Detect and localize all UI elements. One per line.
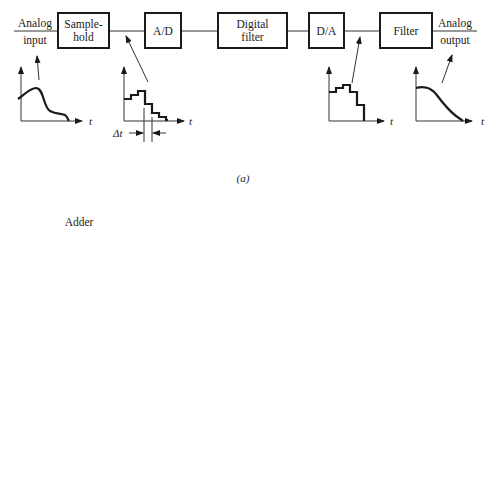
filter-block: Filter bbox=[380, 13, 432, 48]
da-converter-block: D/A bbox=[309, 13, 344, 48]
svg-text:D/A: D/A bbox=[317, 25, 338, 37]
adder-element: Adder PLACEHOLDER_ADDER bbox=[65, 216, 94, 228]
delta-t-label: Δt bbox=[112, 127, 123, 139]
part-a-block-diagram: Analog input Sample- hold A/D Digital fi… bbox=[14, 13, 485, 185]
pointer-arrow bbox=[37, 56, 39, 80]
svg-text:hold: hold bbox=[73, 31, 94, 43]
svg-text:t: t bbox=[89, 115, 93, 127]
pointer-arrow bbox=[352, 37, 360, 83]
analog-input-label-bottom: input bbox=[23, 34, 47, 47]
analog-output-label-bottom: output bbox=[440, 34, 470, 47]
svg-text:Sample-: Sample- bbox=[64, 18, 102, 31]
ad-converter-block: A/D bbox=[145, 13, 181, 48]
svg-text:t: t bbox=[189, 115, 193, 127]
svg-text:Filter: Filter bbox=[394, 25, 419, 37]
da-output-waveform: t bbox=[329, 67, 394, 127]
analog-output-waveform: t bbox=[416, 67, 485, 127]
sample-hold-block: Sample- hold bbox=[58, 13, 109, 48]
digital-filter-block: Digital filter bbox=[218, 13, 287, 48]
svg-text:t: t bbox=[390, 115, 394, 127]
adder-title: Adder bbox=[65, 216, 94, 228]
svg-text:t: t bbox=[481, 115, 485, 127]
caption-a: (a) bbox=[237, 172, 250, 185]
analog-input-label-top: Analog bbox=[18, 17, 52, 30]
analog-input-waveform: t bbox=[18, 67, 93, 127]
svg-text:filter: filter bbox=[241, 31, 264, 43]
part-b-elements: Adder PLACEHOLDER_ADDER bbox=[65, 216, 94, 228]
signal-processing-diagram: Analog input Sample- hold A/D Digital fi… bbox=[0, 0, 498, 481]
svg-text:Digital: Digital bbox=[237, 18, 269, 31]
sampled-waveform: t Δt bbox=[112, 67, 193, 142]
svg-text:A/D: A/D bbox=[153, 25, 173, 37]
analog-output-label-top: Analog bbox=[438, 17, 472, 30]
pointer-arrow bbox=[442, 55, 452, 83]
